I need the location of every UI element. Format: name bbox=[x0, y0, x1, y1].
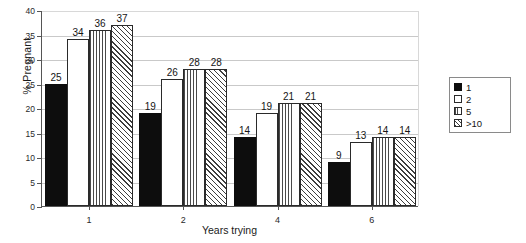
y-tick-label: 15 bbox=[26, 129, 35, 139]
legend-swatch-icon bbox=[454, 83, 462, 91]
bar-value-label: 36 bbox=[95, 18, 106, 29]
bar: 34 bbox=[67, 39, 89, 206]
bar-value-label: 21 bbox=[305, 91, 316, 102]
bar-value-label: 19 bbox=[145, 101, 156, 112]
bar: 21 bbox=[278, 103, 300, 206]
bar: 19 bbox=[139, 113, 161, 206]
y-tick-label: 25 bbox=[26, 80, 35, 90]
bar: 13 bbox=[350, 142, 372, 206]
bar-value-label: 21 bbox=[283, 91, 294, 102]
y-tick-label: 40 bbox=[26, 6, 35, 16]
bar-group: 25343637 bbox=[45, 11, 133, 206]
bar-group: 19262828 bbox=[139, 11, 227, 206]
legend-item[interactable]: 2 bbox=[454, 93, 506, 105]
legend-item[interactable]: 5 bbox=[454, 105, 506, 117]
bar: 14 bbox=[372, 137, 394, 206]
bar: 21 bbox=[300, 103, 322, 206]
bar: 9 bbox=[328, 162, 350, 206]
bar-value-label: 19 bbox=[261, 101, 272, 112]
bar: 25 bbox=[45, 84, 67, 207]
y-tick-label: 5 bbox=[30, 178, 35, 188]
bar: 14 bbox=[234, 137, 256, 206]
bar-value-label: 13 bbox=[355, 130, 366, 141]
x-tick-mark bbox=[278, 206, 279, 210]
chart-legend: 125>10 bbox=[449, 77, 511, 133]
legend-item[interactable]: 1 bbox=[454, 81, 506, 93]
bar: 26 bbox=[161, 79, 183, 206]
bar-group: 14192121 bbox=[234, 11, 322, 206]
plot-area: 0510152025303540 25343637192628281419212… bbox=[41, 11, 418, 207]
y-tick-label: 30 bbox=[26, 55, 35, 65]
bar: 37 bbox=[111, 25, 133, 206]
bar-value-label: 26 bbox=[167, 67, 178, 78]
bar: 28 bbox=[205, 69, 227, 206]
x-axis-title: Years trying bbox=[41, 224, 418, 236]
bar-value-label: 28 bbox=[211, 57, 222, 68]
bar-value-label: 14 bbox=[399, 125, 410, 136]
legend-label: 2 bbox=[466, 94, 471, 105]
bar-value-label: 9 bbox=[336, 150, 342, 161]
bar-value-label: 37 bbox=[117, 13, 128, 24]
bar-value-label: 28 bbox=[189, 57, 200, 68]
legend-swatch-icon bbox=[454, 119, 462, 127]
x-tick-mark bbox=[183, 206, 184, 210]
y-tick-label: 35 bbox=[26, 31, 35, 41]
bar: 28 bbox=[183, 69, 205, 206]
bar-series-container: 2534363719262828141921219131414 bbox=[42, 11, 418, 206]
bar: 14 bbox=[394, 137, 416, 206]
bar-chart-figure: % Pregnant 0510152025303540 253436371926… bbox=[0, 0, 526, 243]
legend-label: 1 bbox=[466, 82, 471, 93]
x-tick-mark bbox=[372, 206, 373, 210]
bar: 19 bbox=[256, 113, 278, 206]
y-tick-label: 20 bbox=[26, 104, 35, 114]
bar-value-label: 34 bbox=[73, 27, 84, 38]
bar-value-label: 25 bbox=[51, 72, 62, 83]
y-tick-label: 10 bbox=[26, 153, 35, 163]
legend-item[interactable]: >10 bbox=[454, 117, 506, 129]
legend-swatch-icon bbox=[454, 95, 462, 103]
y-tick-label: 0 bbox=[30, 202, 35, 212]
bar-value-label: 14 bbox=[239, 125, 250, 136]
bar: 36 bbox=[89, 30, 111, 206]
bar-value-label: 14 bbox=[377, 125, 388, 136]
x-tick-mark bbox=[89, 206, 90, 210]
legend-label: >10 bbox=[466, 118, 482, 129]
legend-label: 5 bbox=[466, 106, 471, 117]
bar-group: 9131414 bbox=[328, 11, 416, 206]
legend-swatch-icon bbox=[454, 107, 462, 115]
y-tick-mark bbox=[37, 207, 42, 208]
